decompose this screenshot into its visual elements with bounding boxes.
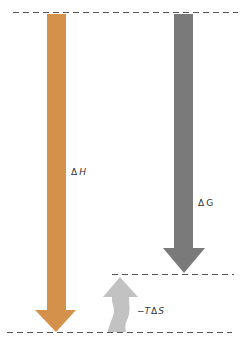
minus-t-delta-s-label: −TΔS <box>137 306 164 316</box>
delta-g-label: ΔG <box>198 198 213 208</box>
delta-h-arrow <box>35 14 76 332</box>
thermodynamics-diagram: ΔH ΔG −TΔS <box>0 0 240 344</box>
minus-t-delta-s-arrow <box>103 277 138 332</box>
delta-g-arrow <box>163 14 205 273</box>
delta-h-label: ΔH <box>71 167 86 177</box>
